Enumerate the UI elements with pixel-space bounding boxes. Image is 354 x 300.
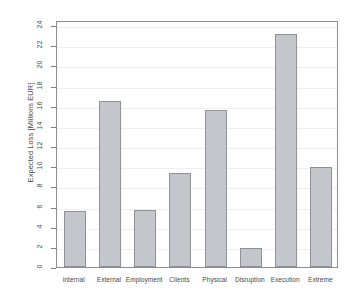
plot-area xyxy=(56,21,338,268)
bar xyxy=(169,173,191,267)
y-tick-label: 4 xyxy=(36,217,43,235)
gridline xyxy=(57,27,337,28)
x-tick-label: Disruption xyxy=(235,276,265,283)
bar xyxy=(64,211,86,267)
x-tick-label: Extreme xyxy=(308,276,333,283)
bar xyxy=(134,210,156,267)
y-tick-label: 8 xyxy=(36,177,43,195)
bar xyxy=(240,248,262,267)
y-tick-label: 14 xyxy=(36,116,43,134)
x-tick-label: Physical xyxy=(202,276,227,283)
x-tick-label: Internal xyxy=(63,276,85,283)
y-tick-mark xyxy=(51,268,56,269)
y-tick-label: 2 xyxy=(36,237,43,255)
y-tick-label: 0 xyxy=(36,258,43,276)
x-tick-label: Execution xyxy=(271,276,300,283)
x-tick-label: Employment xyxy=(126,276,163,283)
y-tick-label: 22 xyxy=(36,36,43,54)
y-tick-label: 18 xyxy=(36,76,43,94)
bar xyxy=(205,110,227,267)
bar xyxy=(310,167,332,267)
y-tick-label: 16 xyxy=(36,96,43,114)
y-tick-label: 12 xyxy=(36,137,43,155)
bar xyxy=(275,34,297,267)
x-tick-label: External xyxy=(97,276,121,283)
y-tick-label: 10 xyxy=(36,157,43,175)
x-tick-label: Clients xyxy=(169,276,189,283)
bar xyxy=(99,101,121,267)
y-tick-label: 6 xyxy=(36,197,43,215)
y-tick-label: 20 xyxy=(36,56,43,74)
bar-chart-figure: Expected Loss [Millions EUR] 02468101214… xyxy=(0,0,354,300)
y-axis-title: Expected Loss [Millions EUR] xyxy=(26,33,35,233)
y-tick-label: 24 xyxy=(36,16,43,34)
